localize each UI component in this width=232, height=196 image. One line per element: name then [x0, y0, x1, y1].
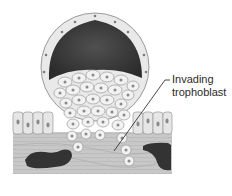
blastocyst: [41, 13, 149, 121]
label-invading-trophoblast-line1: Invading: [172, 73, 214, 86]
implantation-diagram: Invading trophoblast: [0, 0, 232, 196]
label-invading-trophoblast-line2: trophoblast: [172, 86, 226, 99]
